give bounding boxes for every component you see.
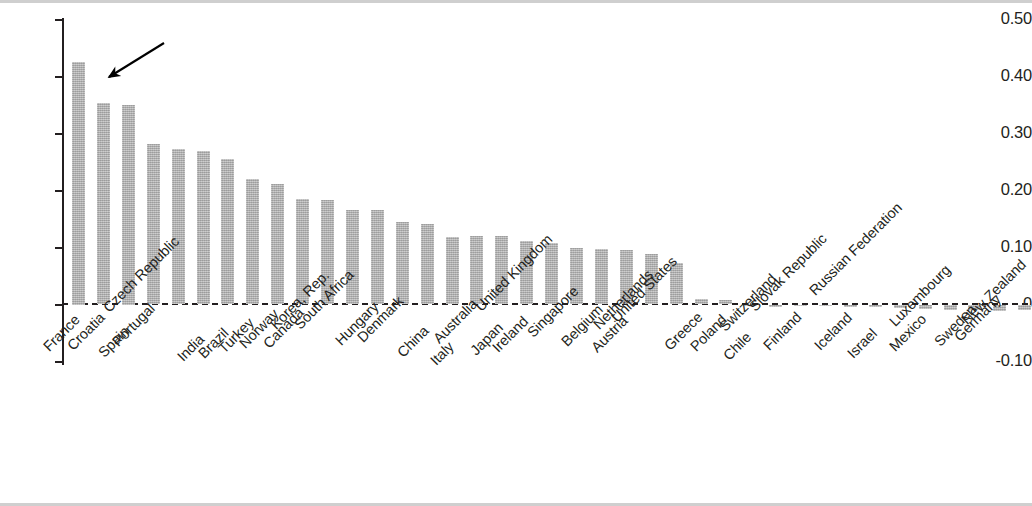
x-tick-label: Chile bbox=[720, 329, 754, 363]
x-axis-labels: FranceCroatiaSpainPortugalCzech Republic… bbox=[0, 0, 1032, 506]
plot-area: 0.500.400.300.200.100-0.10 FranceCroatia… bbox=[0, 0, 1032, 506]
x-tick-label: United States bbox=[608, 254, 680, 326]
x-tick-label: Finland bbox=[760, 309, 804, 353]
x-tick-label: China bbox=[394, 322, 432, 360]
x-tick-label: Israel bbox=[844, 326, 880, 362]
x-tick-label: Slovak Republic bbox=[746, 230, 830, 314]
x-tick-label: New Zealand bbox=[958, 256, 1029, 327]
bar-chart: 0.500.400.300.200.100-0.10 FranceCroatia… bbox=[0, 0, 1032, 506]
x-tick-label: Czech Republic bbox=[100, 233, 182, 315]
x-tick-label: United Kingdom bbox=[472, 231, 555, 314]
